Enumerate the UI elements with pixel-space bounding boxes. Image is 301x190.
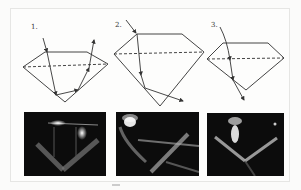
ray-3 — [220, 27, 244, 100]
diamond-2 — [114, 34, 204, 106]
diamond-diagrams — [0, 0, 301, 110]
diamond-1 — [23, 52, 108, 102]
photo-shallow-cut — [207, 113, 284, 176]
diamond-3 — [207, 43, 284, 90]
photo-deep-cut — [116, 112, 199, 176]
photo-ideal-cut — [24, 112, 106, 176]
caption-mark — [112, 184, 120, 186]
